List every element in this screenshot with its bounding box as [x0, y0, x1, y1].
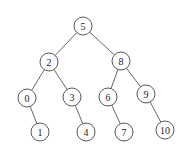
- tree-edge: [32, 70, 45, 91]
- tree-node: 2: [40, 53, 58, 71]
- node-label: 0: [25, 93, 30, 104]
- tree-edge: [30, 106, 37, 123]
- tree-edge: [126, 68, 140, 87]
- node-label: 1: [38, 127, 43, 138]
- node-label: 4: [84, 127, 89, 138]
- tree-edge: [55, 33, 77, 56]
- tree-node: 7: [115, 123, 133, 141]
- node-label: 5: [81, 21, 86, 32]
- tree-edge: [54, 70, 67, 90]
- node-label: 9: [144, 89, 149, 100]
- tree-edge: [111, 69, 118, 88]
- tree-node: 8: [112, 52, 130, 70]
- tree-node: 1: [31, 123, 49, 141]
- node-label: 3: [70, 92, 75, 103]
- tree-nodes: 528036914710: [18, 17, 174, 141]
- tree-node: 0: [18, 89, 36, 107]
- binary-tree-diagram: 528036914710: [0, 0, 189, 151]
- node-label: 10: [160, 125, 170, 136]
- tree-node: 9: [137, 85, 155, 103]
- tree-edge: [112, 105, 121, 124]
- tree-node: 6: [99, 88, 117, 106]
- tree-edge: [90, 32, 115, 55]
- node-label: 8: [119, 56, 124, 67]
- tree-edges: [30, 32, 161, 124]
- tree-node: 3: [63, 88, 81, 106]
- node-label: 6: [106, 92, 111, 103]
- tree-node: 4: [77, 123, 95, 141]
- tree-node: 5: [74, 17, 92, 35]
- tree-edge: [150, 102, 161, 122]
- tree-edge: [75, 105, 82, 123]
- node-label: 2: [47, 57, 52, 68]
- tree-node: 10: [156, 121, 174, 139]
- node-label: 7: [122, 127, 127, 138]
